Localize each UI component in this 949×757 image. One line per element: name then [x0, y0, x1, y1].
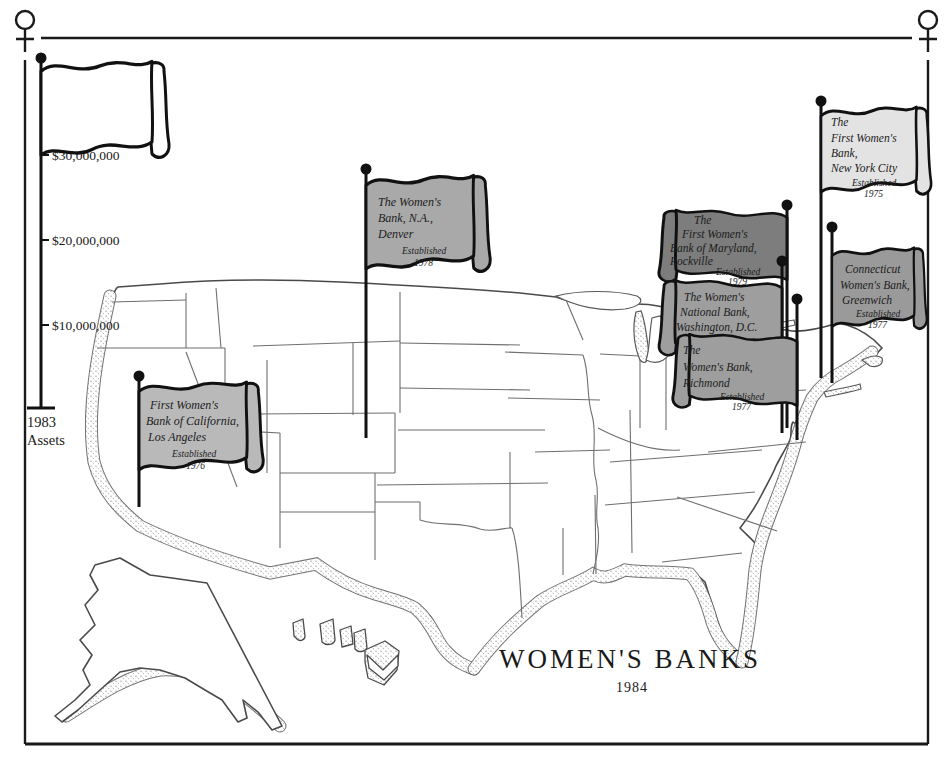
bank-name-line: First Women's — [149, 398, 219, 412]
bank-name-line: The Women's — [378, 195, 441, 209]
bank-established-label: Established — [401, 246, 447, 256]
flag-finial — [792, 294, 803, 305]
bank-name-line: New York City — [830, 162, 898, 175]
flag-finial — [361, 164, 372, 175]
axis-label-line2: Assets — [27, 432, 65, 448]
bank-name-line: The — [683, 344, 700, 356]
bank-established-label: Established — [715, 267, 761, 277]
bank-established-year: 1976 — [186, 461, 205, 471]
bank-name-line: Connecticut — [845, 263, 901, 275]
bank-name-line: First Women's — [681, 228, 748, 240]
bank-name-line: Denver — [377, 227, 414, 241]
figure-year: 1984 — [616, 680, 648, 695]
bank-name-line: Richmond — [682, 377, 730, 389]
bank-name-line: Bank, N.A., — [378, 211, 433, 225]
figure-title: WOMEN'S BANKS — [499, 644, 761, 674]
bank-name-line: The — [831, 116, 848, 128]
bank-established-year: 1978 — [414, 258, 433, 268]
bank-name-line: Women's Bank, — [683, 361, 753, 374]
bank-established-label: Established — [855, 309, 901, 319]
bank-established-year: 1977 — [868, 320, 888, 330]
axis-label-line1: 1983 — [27, 414, 56, 430]
scale-flag-blank — [41, 62, 169, 158]
flag-finial — [134, 371, 145, 382]
bank-name-line: Women's Bank, — [840, 279, 910, 292]
bank-established-label: Established — [171, 449, 217, 459]
bank-established-year: 1977 — [732, 402, 752, 412]
figure-canvas: $30,000,000 $20,000,000 $10,000,000 1983… — [0, 0, 949, 757]
flag-finial — [782, 200, 793, 211]
bank-name-line: Washington, D.C. — [676, 321, 757, 334]
axis-tick-label-10m: $10,000,000 — [52, 318, 120, 333]
bank-name-line: Los Angeles — [147, 430, 206, 444]
bank-established-label: Established — [719, 392, 765, 402]
bank-name-line: Bank of California, — [146, 414, 239, 428]
bank-established-label: Established — [851, 178, 897, 188]
bank-name-line: National Bank, — [679, 306, 750, 319]
bank-established-year: 1975 — [864, 189, 883, 199]
bank-name-line: The Women's — [684, 291, 745, 303]
bank-name-line: Greenwich — [842, 294, 892, 306]
bank-name-line: The — [694, 214, 711, 226]
bank-name-line: Rockville — [669, 255, 713, 267]
figure-page: $30,000,000 $20,000,000 $10,000,000 1983… — [0, 0, 949, 757]
bank-name-line: First Women's — [830, 132, 897, 144]
flag-finial — [827, 222, 838, 233]
axis-tick-label-20m: $20,000,000 — [52, 233, 120, 248]
flag-finial — [777, 256, 788, 267]
flag-finial — [816, 96, 827, 107]
bank-name-line: Bank, — [831, 147, 858, 160]
scale-flag-finial — [36, 53, 47, 64]
bank-name-line: Bank of Maryland, — [670, 242, 757, 255]
